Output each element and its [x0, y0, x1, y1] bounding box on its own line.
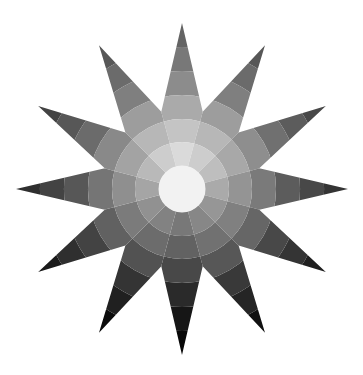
star-segment [65, 29, 146, 89]
center-disc [159, 166, 206, 213]
star-segment [164, 234, 200, 259]
star-segment [88, 165, 114, 214]
star-segment [22, 226, 82, 307]
star-segment [219, 29, 300, 89]
star-segment [65, 289, 146, 349]
star-segment [40, 152, 68, 226]
star-segment [151, 71, 212, 98]
star-segment [145, 47, 219, 75]
star-segment [151, 280, 212, 307]
star-segment [282, 226, 342, 307]
star-segment [22, 72, 82, 153]
star-segment [296, 152, 324, 226]
star-segment [282, 72, 342, 153]
star-segment [164, 119, 200, 144]
star-segment [273, 158, 300, 219]
star-segment [158, 95, 207, 121]
color-star-figure [0, 0, 363, 375]
star-segment [227, 171, 252, 207]
star-segment [112, 171, 137, 207]
star-segment [145, 303, 219, 331]
star-segment [158, 257, 207, 283]
star-segment [64, 158, 91, 219]
color-star-graphic [0, 0, 363, 375]
star-segment [250, 165, 276, 214]
star-segment [219, 289, 300, 349]
